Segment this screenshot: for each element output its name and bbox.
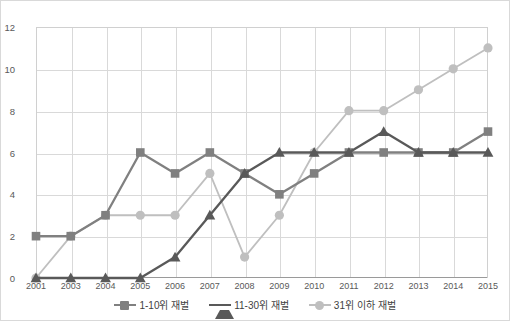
data-point-square (379, 148, 388, 157)
legend-item-1[interactable]: 1-10위 재벌 (114, 297, 189, 312)
legend-label: 31위 이하 재벌 (334, 297, 396, 312)
legend-glyph-shape (120, 301, 129, 310)
data-point-square (275, 190, 284, 199)
y-tick-label: 10 (0, 63, 15, 74)
data-point-triangle (378, 126, 389, 136)
data-point-circle (205, 169, 214, 178)
legend-glyph-shape (215, 301, 234, 319)
x-tick-label: 2009 (269, 281, 289, 291)
series-layer (36, 27, 488, 278)
legend-marker-circle-icon (309, 300, 331, 310)
y-tick-label: 12 (0, 22, 15, 33)
data-point-circle (344, 106, 353, 115)
data-point-circle (275, 211, 284, 220)
legend-marker-triangle-icon (209, 300, 231, 310)
legend-label: 11-30위 재벌 (234, 297, 289, 312)
chart-legend: 1-10위 재벌11-30위 재벌31위 이하 재벌 (1, 297, 509, 312)
data-point-square (484, 127, 493, 136)
data-point-square (32, 232, 41, 241)
y-tick-label: 4 (0, 189, 15, 200)
legend-label: 1-10위 재벌 (139, 297, 189, 312)
data-point-square (136, 148, 145, 157)
data-point-circle (414, 85, 423, 94)
series-2 (31, 126, 494, 282)
series-line (36, 132, 488, 237)
data-point-circle (449, 64, 458, 73)
data-point-circle (170, 211, 179, 220)
x-tick-label: 2006 (165, 281, 185, 291)
y-tick-label: 2 (0, 231, 15, 242)
data-point-circle (240, 252, 249, 261)
data-point-square (66, 232, 75, 241)
line-chart: 024681012 200120032004200520062007200820… (0, 0, 510, 321)
legend-item-3[interactable]: 31위 이하 재벌 (309, 297, 396, 312)
data-point-square (206, 148, 215, 157)
legend-marker-square-icon (114, 300, 136, 310)
x-tick-label: 2012 (374, 281, 394, 291)
data-point-square (310, 169, 319, 178)
legend-glyph-shape (315, 301, 324, 310)
x-tick-label: 2008 (235, 281, 255, 291)
data-point-circle (136, 211, 145, 220)
y-tick-label: 0 (0, 273, 15, 284)
legend-item-2[interactable]: 11-30위 재벌 (209, 297, 289, 312)
x-tick-label: 2007 (200, 281, 220, 291)
x-tick-label: 2014 (443, 281, 463, 291)
x-tick-label: 2011 (339, 281, 358, 291)
x-tick-label: 2004 (96, 281, 116, 291)
x-tick-label: 2005 (130, 281, 150, 291)
series-1 (32, 127, 493, 240)
data-point-circle (483, 43, 492, 52)
x-tick-label: 2013 (408, 281, 428, 291)
y-tick-label: 8 (0, 105, 15, 116)
x-tick-label: 2010 (304, 281, 324, 291)
y-tick-label: 6 (0, 147, 15, 158)
x-tick-label: 2015 (478, 281, 498, 291)
x-tick-label: 2003 (61, 281, 81, 291)
data-point-square (101, 211, 110, 220)
data-point-square (171, 169, 180, 178)
data-point-circle (379, 106, 388, 115)
